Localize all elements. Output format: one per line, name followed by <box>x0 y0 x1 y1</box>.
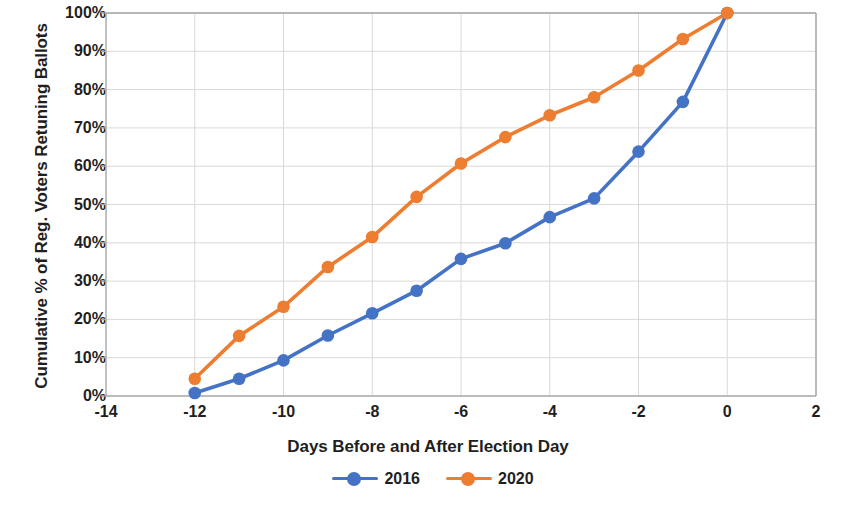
data-point-2016 <box>366 307 379 320</box>
data-point-2016 <box>588 192 601 205</box>
chart-legend: 20162020 <box>0 470 866 488</box>
data-point-2020 <box>499 131 512 144</box>
legend-label: 2020 <box>498 470 534 488</box>
data-point-2020 <box>588 91 601 104</box>
data-point-2016 <box>677 96 690 109</box>
x-axis-tick-label: -10 <box>254 404 314 420</box>
legend-marker-icon <box>446 471 492 487</box>
plot-area <box>0 0 866 508</box>
data-point-2020 <box>677 33 690 46</box>
data-point-2016 <box>543 211 556 224</box>
x-axis-title: Days Before and After Election Day <box>108 437 748 457</box>
legend-label: 2016 <box>384 470 420 488</box>
x-axis-tick-label: -8 <box>342 404 402 420</box>
x-axis-tick-label: -14 <box>76 404 136 420</box>
data-point-2020 <box>366 231 379 244</box>
legend-item-2016[interactable]: 2016 <box>332 470 420 488</box>
data-point-2020 <box>410 191 423 204</box>
data-point-2016 <box>410 284 423 297</box>
data-point-2016 <box>277 354 290 367</box>
data-point-2020 <box>455 157 468 170</box>
x-axis-tick-label: -6 <box>431 404 491 420</box>
data-point-2016 <box>632 145 645 158</box>
x-axis-tick-label: 0 <box>697 404 757 420</box>
data-point-2016 <box>455 253 468 266</box>
legend-marker-icon <box>332 471 378 487</box>
data-point-2020 <box>632 64 645 77</box>
data-point-2016 <box>499 237 512 250</box>
x-axis-tick-label: -2 <box>609 404 669 420</box>
data-point-2020 <box>543 109 556 122</box>
x-axis-tick-label: -4 <box>520 404 580 420</box>
data-point-2020 <box>322 261 335 274</box>
x-axis-tick-label: -12 <box>165 404 225 420</box>
legend-item-2020[interactable]: 2020 <box>446 470 534 488</box>
x-axis-tick-label: 2 <box>786 404 846 420</box>
data-point-2016 <box>233 372 246 385</box>
data-point-2020 <box>721 7 734 20</box>
data-point-2016 <box>188 387 201 400</box>
data-point-2020 <box>233 330 246 343</box>
line-chart: Cumulative % of Reg. Voters Retuning Bal… <box>0 0 866 508</box>
data-point-2020 <box>277 300 290 313</box>
data-point-2016 <box>322 329 335 342</box>
data-point-2020 <box>188 372 201 385</box>
